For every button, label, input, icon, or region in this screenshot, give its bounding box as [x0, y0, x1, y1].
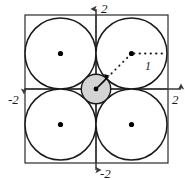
segment-length-label: 1	[145, 59, 151, 73]
figure-canvas: 2 -2 -2 2 1	[0, 0, 185, 180]
x-axis-left-label: -2	[8, 92, 19, 107]
x-axis-right-label: 2	[172, 92, 179, 107]
center-dot-bottom-left	[58, 122, 63, 127]
geometry-figure: 2 -2 -2 2 1	[0, 0, 185, 180]
y-axis-top-label: 2	[101, 1, 108, 16]
y-axis-bottom-label: -2	[100, 166, 111, 180]
center-dot-bottom-right	[129, 122, 134, 127]
center-dot-top-left	[58, 51, 63, 56]
